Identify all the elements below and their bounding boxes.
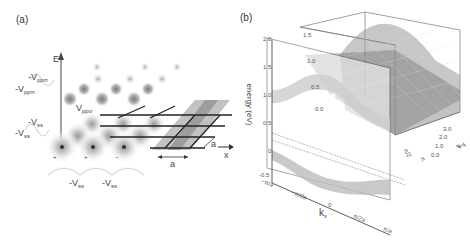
energy-tick: 0 [268,148,271,154]
hopping-label-vss-bottom-1: -Vss [69,178,84,189]
ky-tick: 3.0 [443,126,451,132]
box-z-tick: 1.0 [307,58,315,64]
ky-tick: 0.0 [431,152,439,158]
box-z-tick: 0.5 [311,84,319,90]
kx-axis-label: kx [319,207,327,219]
hopping-label-vss-1: -Vss [28,117,43,128]
hopping-label-vpppi-2: -Vppπ [15,84,35,95]
panel-b-label: (b) [240,12,252,23]
energy-tick: 2.0 [263,36,271,42]
p-orbitals [62,62,182,107]
panel-b-band-structure: (b) energy (eV) 2.0 1.5 1.0 0.5 0 -0.5 −… [235,0,470,243]
hopping-label-vppsigma: Vppσ [76,103,92,114]
box-z-tick: 0.0 [315,106,323,112]
kx-tick: 0 [328,202,331,208]
energy-tick: 1.5 [263,64,271,70]
energy-tick: 0.5 [263,120,271,126]
energy-tick: -0.5 [259,172,269,178]
panel-a-lattice-schematic: (a) E -Vppπ -Vppπ Vppσ -Vss -Vss -Vss -V… [0,0,235,243]
energy-tick: 1.0 [263,92,271,98]
ky-tick: 1.0 [435,143,443,149]
energy-axis-label: E [53,54,59,64]
box-z-tick: 1.5 [303,32,311,38]
orbital-sign-1: + [53,154,57,160]
hopping-label-vss-2: -Vss [15,128,30,139]
lattice-constant-y-label: a [211,139,216,149]
ky-tick: 2.0 [439,134,447,140]
energy-axis-label: energy (eV) [245,84,254,126]
hopping-label-vpppi-1: -Vppπ [28,72,48,83]
hopping-label-vss-bottom-2: -Vss [102,178,117,189]
panel-a-label: (a) [16,14,28,25]
orbital-sign-2: + [84,154,88,160]
orbital-sign-3: − [115,154,119,160]
x-axis-label: x [224,150,229,160]
lattice-constant-x-label: a [170,159,175,169]
